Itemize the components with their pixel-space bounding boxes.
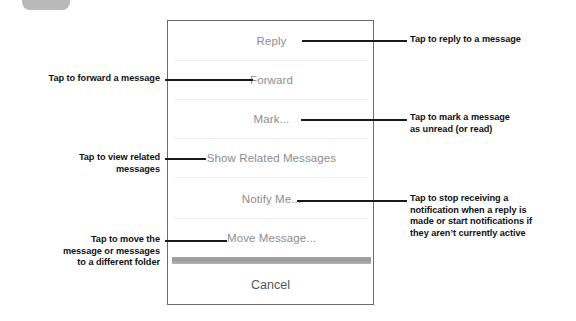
annotation-line: to a different folder <box>0 257 160 269</box>
leader-line-show-related <box>165 158 206 160</box>
menu-item-label: Show Related Messages <box>207 152 336 164</box>
menu-separator <box>174 177 369 178</box>
action-sheet-menu-list: Reply Forward Mark... Show Related Messa… <box>168 21 373 257</box>
cancel-button-label: Cancel <box>251 278 290 292</box>
annotation-mark: Tap to mark a message as unread (or read… <box>410 112 572 135</box>
annotation-line: they aren’t currently active <box>410 228 576 240</box>
action-sheet-panel: Reply Forward Mark... Show Related Messa… <box>167 20 374 305</box>
annotation-line: Tap to forward a message <box>0 73 160 85</box>
leader-line-notify-me <box>297 200 407 202</box>
annotation-reply: Tap to reply to a message <box>410 34 570 46</box>
annotation-line: Tap to view related <box>0 152 160 164</box>
annotated-action-sheet-figure: { "figure": { "title": "Annotated iOS me… <box>0 0 576 321</box>
menu-item-notify-me[interactable]: Notify Me... <box>172 179 371 218</box>
annotation-move-message: Tap to move the message or messages to a… <box>0 234 160 269</box>
annotation-line: Tap to reply to a message <box>410 34 570 46</box>
menu-item-move-message[interactable]: Move Message... <box>172 218 371 257</box>
leader-line-move-message <box>165 240 227 242</box>
leader-line-mark <box>301 119 407 121</box>
menu-item-label: Forward <box>250 74 293 86</box>
annotation-line: notification when a reply is <box>410 205 576 217</box>
annotation-line: Tap to mark a message <box>410 112 572 124</box>
menu-item-label: Mark... <box>254 113 290 125</box>
section-divider <box>172 257 371 264</box>
annotation-line: Tap to move the <box>0 234 160 246</box>
annotation-forward: Tap to forward a message <box>0 73 160 85</box>
annotation-line: as unread (or read) <box>410 124 572 136</box>
annotation-line: made or start notifications if <box>410 216 576 228</box>
leader-line-reply <box>302 40 407 42</box>
menu-item-label: Reply <box>257 35 287 47</box>
annotation-line: Tap to stop receiving a <box>410 193 576 205</box>
rounded-tab-shape <box>22 0 70 10</box>
menu-item-label: Move Message... <box>227 232 316 244</box>
annotation-line: messages <box>0 164 160 176</box>
annotation-notify-me: Tap to stop receiving a notification whe… <box>410 193 576 239</box>
leader-line-forward <box>165 79 253 81</box>
cancel-button[interactable]: Cancel <box>168 264 373 306</box>
annotation-line: message or messages <box>0 246 160 258</box>
menu-item-label: Notify Me... <box>242 193 301 205</box>
annotation-show-related: Tap to view related messages <box>0 152 160 175</box>
